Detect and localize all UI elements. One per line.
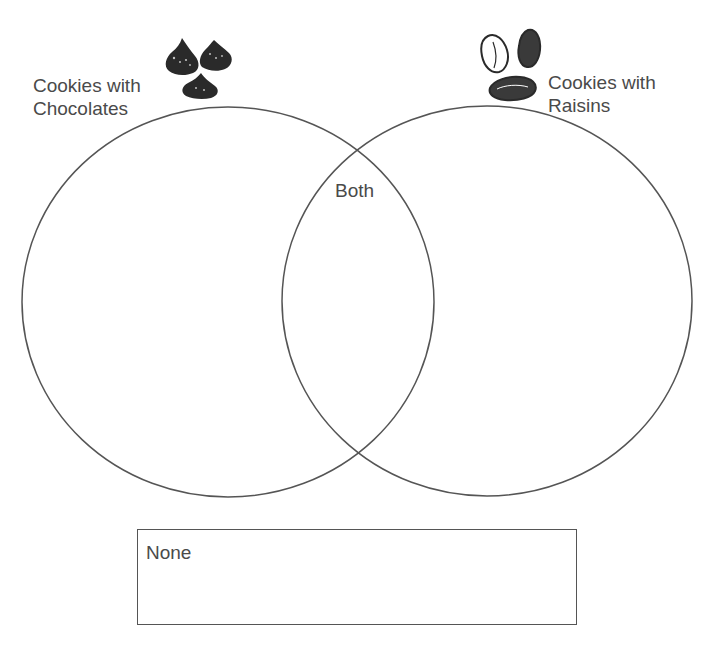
raisins-label-line1: Cookies with bbox=[548, 71, 656, 94]
chocolates-label-line2: Chocolates bbox=[33, 97, 141, 120]
chocolates-label-line1: Cookies with bbox=[33, 74, 141, 97]
raisins-label: Cookies with Raisins bbox=[548, 71, 656, 117]
raisin-icon bbox=[481, 30, 540, 100]
none-box: None bbox=[137, 529, 577, 625]
raisins-circle bbox=[282, 106, 692, 496]
chocolates-label: Cookies with Chocolates bbox=[33, 74, 141, 120]
chocolates-circle bbox=[22, 107, 434, 497]
chocolate-chip-icon bbox=[166, 38, 232, 99]
intersection-label: Both bbox=[335, 179, 374, 202]
raisins-label-line2: Raisins bbox=[548, 94, 656, 117]
none-label: None bbox=[146, 541, 191, 564]
